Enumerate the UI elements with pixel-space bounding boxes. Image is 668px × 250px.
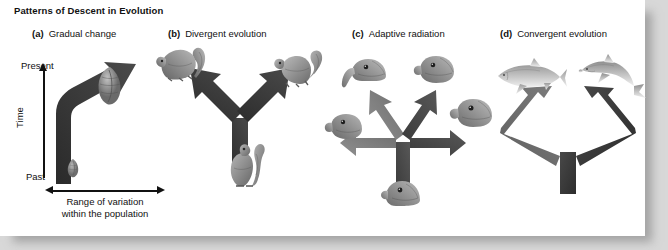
figure-title: Patterns of Descent in Evolution [14, 5, 163, 16]
ancestral-finch-head [380, 178, 422, 208]
large-descendant-organism [96, 66, 124, 106]
panel-title-d: Convergent evolution [517, 28, 607, 39]
finch-head-upper-right [412, 54, 456, 86]
range-label-line1: Range of variation [30, 196, 180, 208]
panel-label-d: (d)Convergent evolution [500, 28, 607, 39]
small-ancestral-organism [66, 158, 81, 178]
figure-page: Patterns of Descent in Evolution (a)Grad… [0, 0, 645, 236]
panel-title-c: Adaptive radiation [369, 28, 445, 39]
ancestral-squirrel [222, 142, 266, 188]
panel-letter-d: (d) [500, 28, 512, 39]
dolphin [578, 54, 648, 102]
panel-label-c: (c)Adaptive radiation [352, 28, 445, 39]
range-label-line2: within the population [30, 208, 180, 220]
variation-axis-arrow [52, 190, 158, 192]
finch-head-left [324, 112, 364, 142]
descendant-squirrel-left [152, 42, 210, 82]
panel-title-b: Divergent evolution [185, 28, 266, 39]
time-axis-arrow [43, 70, 45, 178]
panel-title-a: Gradual change [49, 28, 117, 39]
panel-label-b: (b)Divergent evolution [168, 28, 266, 39]
axis-label-present: Present [21, 60, 54, 71]
shark [494, 58, 568, 96]
panel-letter-b: (b) [168, 28, 180, 39]
axis-label-time: Time [14, 98, 25, 138]
panel-label-a: (a)Gradual change [32, 28, 116, 39]
convergent-evolution-arrows [500, 86, 636, 194]
panel-letter-c: (c) [352, 28, 364, 39]
descendant-squirrel-right [272, 48, 330, 88]
panel-letter-a: (a) [32, 28, 44, 39]
axis-label-range-of-variation: Range of variation within the population [30, 196, 180, 219]
finch-head-right [448, 96, 494, 130]
finch-head-upper-left [340, 56, 388, 90]
